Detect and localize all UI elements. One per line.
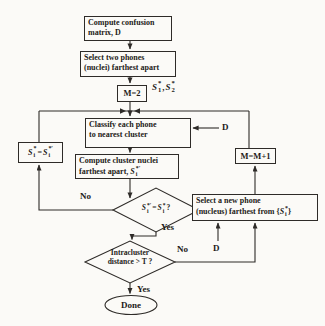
label-yes-distance: Yes — [137, 284, 150, 294]
node-select-two-phones: Select two phones (nuclei) farthest apar… — [80, 51, 176, 77]
label-no-converged: No — [80, 191, 91, 201]
flowchart-canvas: Compute confusion matrix, D Select two p… — [0, 0, 325, 326]
math-s1: S*1 — [152, 80, 161, 94]
node-classify-phones: Classify each phone to nearest cluster — [85, 118, 191, 148]
node-line: Select a new phone — [196, 196, 314, 206]
equals-sign: = — [152, 204, 156, 213]
junction-arrowhead-from-left — [120, 108, 126, 113]
node-label: M=2 — [123, 88, 140, 98]
node-line: matrix, D — [88, 28, 168, 38]
node-compute-cluster-nuclei: Compute cluster nuclei farthest apart, S… — [75, 154, 179, 179]
math-s-cur: S*i — [28, 146, 36, 158]
label-no-distance: No — [177, 244, 188, 254]
math-s-cur: S*i — [280, 206, 288, 218]
node-line: farthest apart, S*′i — [79, 166, 175, 178]
node-line: Compute confusion — [88, 18, 168, 28]
math-s-new: S*′i — [130, 166, 140, 178]
d-input-label-classify: D — [222, 122, 229, 132]
node-line: Select two phones — [84, 53, 172, 63]
math-s-new: S*′i — [142, 203, 152, 215]
node-line: Compute cluster nuclei — [79, 156, 175, 166]
math-s-cur: S*i — [158, 203, 166, 215]
node-line: Classify each phone — [89, 120, 187, 130]
node-line: (nucleus) farthest from {S*i} — [196, 206, 314, 218]
math-s2: S*2 — [166, 80, 175, 94]
node-line: (nuclei) farthest apart — [84, 63, 172, 73]
terminal-done-text: Done — [113, 300, 149, 310]
node-line: to nearest cluster — [89, 130, 187, 140]
junction-arrowhead-from-right — [134, 108, 140, 113]
decision-nuclei-converged-text: S*′i = S*i ? — [114, 203, 198, 215]
equals-sign: = — [37, 148, 42, 158]
node-m-increment: M=M+1 — [235, 148, 276, 164]
arrow-converged-yes-to-distance — [132, 232, 156, 240]
math-s-new: S*′i — [43, 146, 53, 158]
label-yes-converged: Yes — [161, 222, 174, 232]
node-assign-nuclei: S*i = S*′i — [18, 142, 63, 163]
d-input-label-select-new: D — [213, 243, 220, 253]
node-select-new-phone: Select a new phone (nucleus) farthest fr… — [192, 194, 318, 221]
question-mark: ? — [167, 204, 171, 213]
decision-intracluster-text: Intracluster distance > T ? — [93, 249, 167, 266]
node-m-equals-2: M=2 — [117, 85, 147, 102]
comma: , — [162, 82, 164, 92]
node-compute-confusion-matrix: Compute confusion matrix, D — [84, 16, 172, 41]
label-initial-nuclei: S*1 , S*2 — [152, 80, 175, 94]
node-label: M=M+1 — [241, 151, 271, 161]
